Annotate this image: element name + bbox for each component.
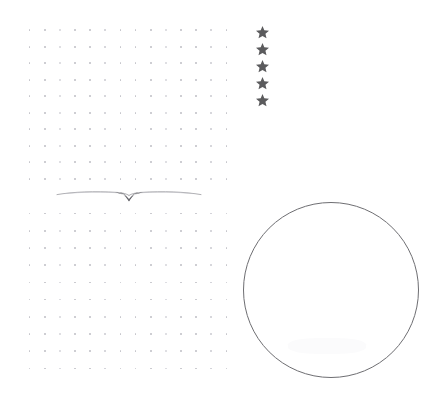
grid-bottom-dot — [104, 350, 106, 352]
grid-bottom-dot — [226, 230, 228, 232]
grid-top-dot — [89, 161, 91, 163]
grid-bottom-dot — [104, 230, 106, 232]
grid-top-dot — [44, 128, 46, 130]
grid-bottom-dot — [104, 333, 106, 335]
grid-bottom-dot — [150, 350, 152, 352]
grid-bottom-dot — [44, 316, 46, 318]
grid-top-dot — [120, 112, 122, 114]
grid-top-dot — [104, 145, 106, 147]
grid-top-dot — [210, 178, 212, 180]
grid-bottom-dot — [150, 299, 152, 301]
grid-bottom-dot — [104, 264, 106, 266]
grid-top-dot — [195, 29, 197, 31]
grid-bottom-dot — [104, 213, 106, 215]
grid-top-dot — [180, 128, 182, 130]
grid-top-dot — [74, 178, 76, 180]
grid-top-dot — [195, 161, 197, 163]
grid-bottom-dot — [29, 299, 31, 301]
grid-top-dot — [29, 128, 31, 130]
grid-top-dot — [29, 95, 31, 97]
grid-bottom-dot — [74, 230, 76, 232]
dot-grid-bottom — [22, 205, 234, 377]
grid-top-dot — [210, 128, 212, 130]
grid-bottom-dot — [29, 264, 31, 266]
grid-top-dot — [210, 79, 212, 81]
grid-bottom-dot — [89, 299, 91, 301]
grid-bottom-dot — [195, 264, 197, 266]
star-icon — [255, 59, 270, 76]
grid-bottom-dot — [195, 333, 197, 335]
grid-top-dot — [29, 79, 31, 81]
grid-top-dot — [165, 112, 167, 114]
grid-bottom-dot — [135, 316, 137, 318]
grid-top-dot — [29, 112, 31, 114]
grid-top-dot — [89, 62, 91, 64]
grid-bottom-dot — [195, 282, 197, 284]
grid-top-dot — [59, 128, 61, 130]
grid-bottom-dot — [44, 213, 46, 215]
grid-top-dot — [29, 29, 31, 31]
grid-top-dot — [74, 161, 76, 163]
grid-bottom-dot — [135, 368, 137, 370]
grid-top-dot — [89, 79, 91, 81]
grid-top-dot — [210, 161, 212, 163]
grid-top-dot — [150, 145, 152, 147]
grid-top-dot — [165, 79, 167, 81]
grid-top-dot — [120, 95, 122, 97]
grid-top-dot — [89, 46, 91, 48]
grid-bottom-dot — [74, 282, 76, 284]
grid-top-dot — [135, 128, 137, 130]
grid-top-dot — [226, 178, 228, 180]
grid-top-dot — [226, 161, 228, 163]
grid-bottom-dot — [59, 230, 61, 232]
grid-bottom-dot — [120, 264, 122, 266]
grid-top-dot — [74, 145, 76, 147]
grid-top-dot — [59, 178, 61, 180]
grid-bottom-dot — [150, 282, 152, 284]
grid-top-dot — [150, 128, 152, 130]
grid-bottom-dot — [210, 368, 212, 370]
grid-top-dot — [165, 62, 167, 64]
grid-top-dot — [210, 29, 212, 31]
grid-bottom-dot — [226, 264, 228, 266]
grid-top-dot — [226, 79, 228, 81]
grid-top-dot — [74, 62, 76, 64]
grid-top-dot — [104, 178, 106, 180]
grid-bottom-dot — [44, 282, 46, 284]
grid-bottom-dot — [226, 368, 228, 370]
grid-bottom-dot — [89, 213, 91, 215]
grid-bottom-dot — [104, 282, 106, 284]
grid-top-dot — [120, 29, 122, 31]
grid-top-dot — [195, 178, 197, 180]
grid-bottom-dot — [195, 299, 197, 301]
grid-top-dot — [59, 79, 61, 81]
grid-top-dot — [120, 62, 122, 64]
grid-bottom-dot — [135, 213, 137, 215]
grid-bottom-dot — [89, 333, 91, 335]
grid-top-dot — [150, 161, 152, 163]
grid-bottom-dot — [59, 350, 61, 352]
grid-bottom-dot — [89, 247, 91, 249]
grid-bottom-dot — [44, 350, 46, 352]
grid-top-dot — [29, 145, 31, 147]
grid-bottom-dot — [44, 299, 46, 301]
grid-bottom-dot — [89, 230, 91, 232]
grid-bottom-dot — [165, 299, 167, 301]
grid-bottom-dot — [210, 299, 212, 301]
grid-bottom-dot — [29, 333, 31, 335]
grid-bottom-dot — [226, 333, 228, 335]
grid-bottom-dot — [135, 264, 137, 266]
grid-bottom-dot — [89, 368, 91, 370]
grid-top-dot — [165, 46, 167, 48]
grid-bottom-dot — [44, 264, 46, 266]
grid-top-dot — [44, 161, 46, 163]
grid-bottom-dot — [165, 333, 167, 335]
grid-top-dot — [74, 79, 76, 81]
grid-bottom-dot — [120, 247, 122, 249]
grid-bottom-dot — [180, 213, 182, 215]
grid-bottom-dot — [180, 299, 182, 301]
grid-bottom-dot — [226, 247, 228, 249]
star-rating-column — [255, 25, 270, 110]
grid-top-dot — [195, 95, 197, 97]
grid-bottom-dot — [74, 350, 76, 352]
